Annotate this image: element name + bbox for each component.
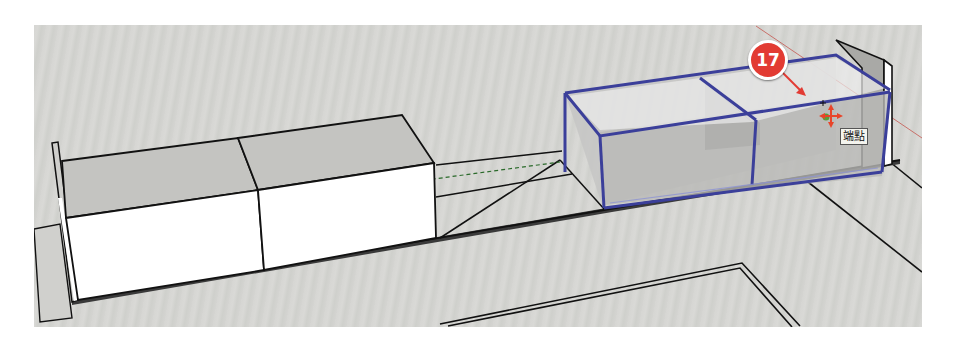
floor-outline — [440, 263, 800, 327]
sketchup-viewport[interactable] — [34, 25, 922, 327]
step-callout-badge: 17 — [748, 40, 788, 80]
left-cabinet-section — [62, 138, 264, 300]
endpoint-inference-tooltip: 端點 — [840, 128, 868, 145]
model-canvas[interactable] — [34, 25, 922, 327]
